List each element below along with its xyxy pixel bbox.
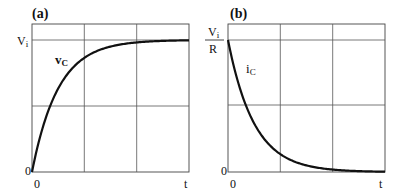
figure: (a) Vi 0 0 t vC (b) Vi R 0 0 t	[0, 0, 403, 192]
panel-b-xtick-zero: 0	[230, 177, 236, 191]
panel-b-xlabel-t: t	[379, 177, 383, 191]
panel-b-label: (b)	[230, 6, 247, 22]
svg-text:R: R	[209, 42, 217, 56]
panel-b: (b) Vi R 0 0 t iC	[205, 6, 385, 191]
panel-b-ytick-zero: 0	[221, 164, 227, 178]
ic-curve-label: iC	[246, 61, 256, 77]
panel-a: (a) Vi 0 0 t vC	[17, 6, 189, 191]
panel-a-ytick-zero: 0	[25, 164, 31, 178]
panel-a-ytick-vi: Vi	[17, 34, 29, 49]
ic-discharge-curve	[228, 40, 385, 172]
vc-curve-label: vC	[55, 52, 68, 68]
panel-b-frame	[228, 24, 385, 172]
panel-b-ytick-vi-over-r: Vi R	[205, 25, 224, 56]
panel-a-xlabel-t: t	[184, 177, 188, 191]
panel-a-label: (a)	[32, 6, 49, 22]
panel-a-xtick-zero: 0	[34, 177, 40, 191]
svg-text:Vi: Vi	[208, 25, 220, 40]
